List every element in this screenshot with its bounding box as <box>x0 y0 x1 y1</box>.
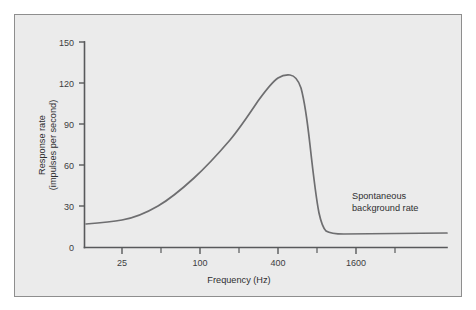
x-axis-title: Frequency (Hz) <box>207 275 270 285</box>
x-tick-label-25: 25 <box>117 258 127 268</box>
x-tick-label-1600: 1600 <box>346 258 366 268</box>
y-axis-title-line1: Response rate <box>37 115 47 175</box>
x-tick-label-400: 400 <box>270 258 285 268</box>
y-axis-title-line2: (impulses per second) <box>48 100 58 190</box>
x-tick-label-100: 100 <box>192 258 207 268</box>
y-tick-label-90: 90 <box>64 120 74 130</box>
annotation-spontaneous-background-rate: Spontaneous background rate <box>352 191 418 213</box>
annotation-line-1: Spontaneous <box>352 191 407 201</box>
y-tick-label-150: 150 <box>59 38 74 48</box>
tuning-curve-chart: 150 120 90 60 30 0 25 100 400 1600 Frequ… <box>0 0 476 310</box>
y-axis-title: Response rate (impulses per second) <box>37 100 58 190</box>
y-tick-label-0: 0 <box>69 243 74 253</box>
y-tick-label-120: 120 <box>59 79 74 89</box>
y-tick-label-30: 30 <box>64 202 74 212</box>
y-tick-label-60: 60 <box>64 161 74 171</box>
annotation-line-2: background rate <box>352 203 418 213</box>
figure-root: 150 120 90 60 30 0 25 100 400 1600 Frequ… <box>0 0 476 310</box>
